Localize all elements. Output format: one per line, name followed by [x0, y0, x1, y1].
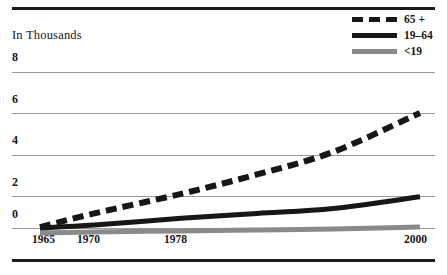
series-line-under-19	[40, 227, 420, 233]
legend-label-19-64: 19–64	[404, 30, 433, 42]
bottom-rule	[12, 259, 435, 262]
legend-swatch-solid-dark-icon	[352, 33, 397, 38]
legend-swatch-solid-gray-icon	[352, 49, 397, 54]
series-line-65-plus	[40, 113, 420, 227]
legend-item-65-plus: 65 +	[352, 12, 444, 27]
legend-item-19-64: 19–64	[352, 28, 444, 43]
legend-swatch-dashed-icon	[352, 17, 397, 22]
legend-label-65-plus: 65 +	[404, 14, 425, 26]
chart-figure: In Thousands 8 6 4 2 0 1965 1970 1978 20…	[0, 0, 447, 275]
legend-label-under-19: <19	[404, 46, 422, 58]
chart-legend: 65 + 19–64 <19	[352, 12, 444, 60]
legend-item-under-19: <19	[352, 44, 444, 59]
